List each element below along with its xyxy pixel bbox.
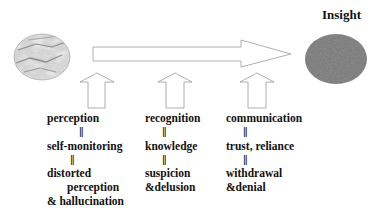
col3-line-denial: &denial bbox=[226, 181, 266, 194]
col1-separator-1: || bbox=[79, 125, 83, 138]
col2-line-delusion: &delusion bbox=[145, 181, 196, 194]
up-arrow-1 bbox=[80, 73, 114, 108]
insight-label: Insight bbox=[322, 8, 361, 21]
col1-separator-2: || bbox=[70, 153, 74, 166]
col1-line-perception: perception bbox=[47, 112, 99, 125]
col2-separator-2: || bbox=[162, 153, 166, 166]
col1-line-perception-2: perception bbox=[67, 181, 119, 194]
main-right-arrow bbox=[93, 40, 291, 67]
col2-separator-1: || bbox=[162, 125, 166, 138]
col1-line-hallucination: & hallucination bbox=[47, 195, 124, 208]
up-arrow-3 bbox=[240, 73, 274, 108]
col3-separator-1: || bbox=[243, 125, 247, 138]
col2-line-knowledge: knowledge bbox=[145, 140, 197, 153]
col2-line-recognition: recognition bbox=[145, 112, 200, 125]
start-node-ellipse bbox=[14, 34, 70, 80]
col1-line-self-monitoring: self-monitoring bbox=[47, 140, 122, 153]
end-node-ellipse bbox=[305, 34, 367, 84]
col3-separator-2: || bbox=[243, 153, 247, 166]
col3-line-withdrawal: withdrawal bbox=[226, 167, 282, 180]
col1-line-distorted: distorted bbox=[47, 167, 91, 180]
col3-line-trust-reliance: trust, reliance bbox=[226, 140, 294, 153]
col3-line-communication: communication bbox=[226, 112, 302, 125]
up-arrow-2 bbox=[158, 73, 192, 108]
col2-line-suspicion: suspicion bbox=[145, 167, 190, 180]
